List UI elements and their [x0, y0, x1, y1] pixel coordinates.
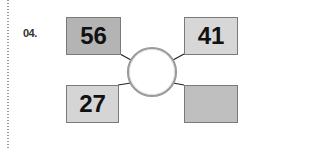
box-value: 56	[80, 22, 107, 50]
box-value: 41	[198, 22, 225, 50]
box-top-left: 56	[66, 17, 121, 55]
center-circle	[128, 48, 176, 96]
box-bottom-left: 27	[66, 85, 119, 123]
box-value: 27	[79, 90, 106, 118]
box-bottom-right	[184, 85, 238, 123]
box-top-right: 41	[184, 17, 238, 55]
